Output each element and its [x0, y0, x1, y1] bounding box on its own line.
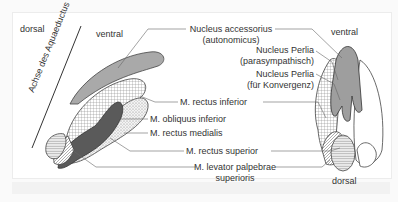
label-rectus-medialis: M. rectus medialis: [150, 128, 223, 139]
label-dorsal-left: dorsal: [20, 24, 45, 35]
label-nucleus-perlia-konvergenz: Nucleus Perlia (für Konvergenz): [236, 69, 314, 91]
label-rectus-superior: M. rectus superior: [186, 146, 258, 157]
label-ventral-left: ventral: [96, 29, 123, 40]
nucleus-perlia-shape: [331, 47, 362, 122]
label-levator-palpebrae: M. levator palpebrae superioris: [190, 162, 280, 184]
label-ventral-right: ventral: [331, 27, 358, 38]
label-obliquus-inferior: M. obliquus inferior: [150, 114, 226, 125]
label-rectus-inferior: M. rectus inferior: [180, 97, 247, 108]
label-nucleus-perlia-parasympathisch: Nucleus Perlia (parasympathisch): [236, 45, 314, 67]
label-dorsal-right: dorsal: [332, 176, 357, 187]
label-nucleus-accessorius: Nucleus accessorius (autonomicus): [186, 24, 276, 46]
